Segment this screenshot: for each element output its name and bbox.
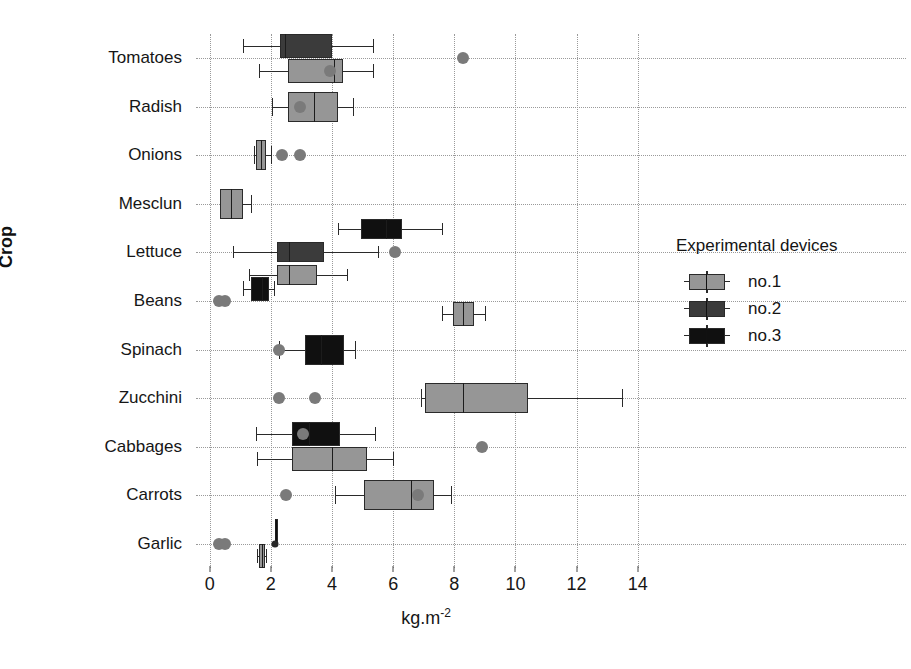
legend-item-no1[interactable]: no.1 [676, 268, 901, 295]
legend-title: Experimental devices [676, 236, 901, 256]
y-axis-tick-label-beans: Beans [134, 291, 182, 311]
x-axis-tick-label-12: 12 [567, 574, 587, 595]
legend-item-no3[interactable]: no.3 [676, 322, 901, 349]
y-axis-tick-label-radish: Radish [129, 97, 182, 117]
x-axis-tick-label-0: 0 [205, 574, 215, 595]
x-axis-tick-mark [637, 566, 638, 572]
plot-area [196, 34, 656, 568]
x-axis-tick-labels: 02468101214 [196, 574, 656, 602]
legend-key-swatch [684, 298, 730, 320]
legend-label: no.1 [748, 272, 781, 292]
x-axis-tick-mark [209, 566, 210, 572]
x-axis-title-exponent: -2 [440, 606, 451, 620]
y-axis-tick-label-lettuce: Lettuce [126, 242, 182, 262]
median-line [262, 544, 263, 568]
x-axis-tick-label-10: 10 [505, 574, 525, 595]
y-axis-tick-label-mesclun: Mesclun [119, 194, 182, 214]
legend-key-swatch [684, 271, 730, 293]
y-axis-tick-label-onions: Onions [128, 145, 182, 165]
x-axis-tick-mark [515, 566, 516, 572]
y-axis-tick-label-tomatoes: Tomatoes [108, 48, 182, 68]
y-axis-tick-label-cabbages: Cabbages [104, 437, 182, 457]
legend-label: no.3 [748, 326, 781, 346]
legend-key-swatch [684, 325, 730, 347]
whisker-cap [266, 549, 267, 563]
x-axis-tick-label-6: 6 [388, 574, 398, 595]
x-axis-tick-mark [332, 566, 333, 572]
legend: Experimental devices no.1no.2no.3 [676, 236, 901, 349]
x-axis-title: kg.m-2 [196, 606, 656, 629]
x-axis-tick-label-4: 4 [327, 574, 337, 595]
x-axis-tick-mark [270, 566, 271, 572]
x-axis-title-base: kg.m [401, 608, 440, 628]
x-axis-tick-label-2: 2 [266, 574, 276, 595]
boxplot-figure: Crop TomatoesRadishOnionsMesclunLettuceB… [0, 0, 911, 669]
x-axis-tick-mark [454, 566, 455, 572]
outlier-point [219, 538, 231, 550]
x-axis-tick-label-8: 8 [449, 574, 459, 595]
x-axis-tick-mark [393, 566, 394, 572]
y-axis-tick-label-carrots: Carrots [126, 485, 182, 505]
x-axis-tick-label-14: 14 [628, 574, 648, 595]
y-axis-tick-label-garlic: Garlic [138, 534, 182, 554]
y-axis-tick-label-zucchini: Zucchini [119, 388, 182, 408]
legend-label: no.2 [748, 299, 781, 319]
x-axis-tick-mark [576, 566, 577, 572]
y-axis-tick-labels: TomatoesRadishOnionsMesclunLettuceBeansS… [0, 0, 182, 669]
y-axis-tick-label-spinach: Spinach [121, 340, 182, 360]
boxplot-garlic-no1 [196, 34, 656, 568]
legend-item-no2[interactable]: no.2 [676, 295, 901, 322]
